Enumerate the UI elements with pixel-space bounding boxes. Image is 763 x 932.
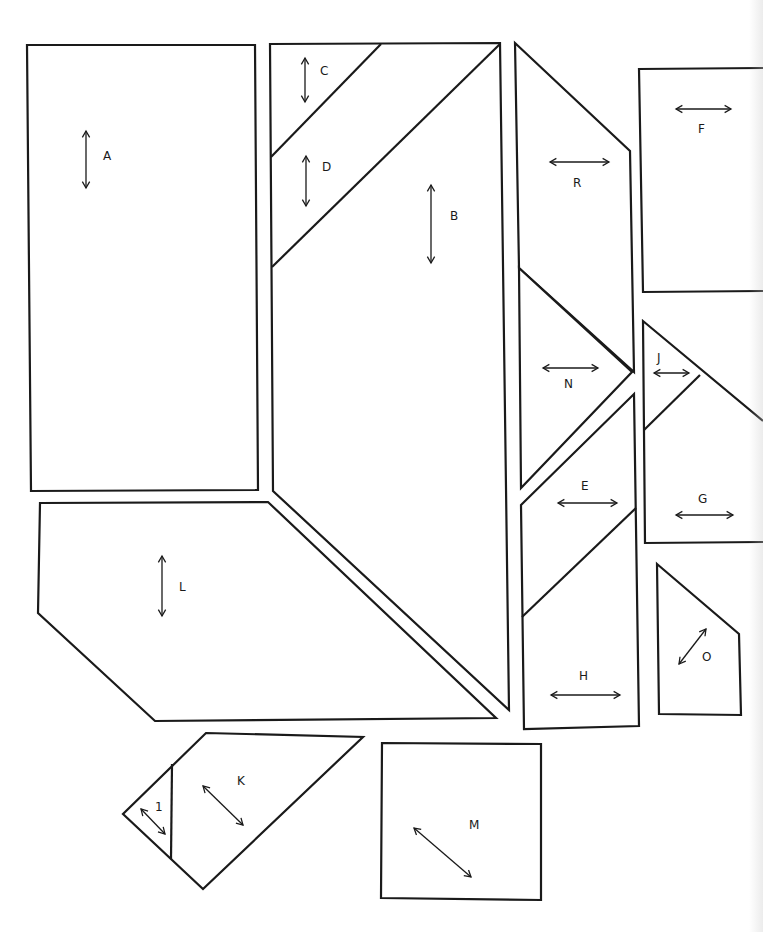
piece-f: F	[639, 68, 763, 292]
page-edge-shadow	[749, 0, 763, 932]
piece-label-r: R	[573, 176, 581, 190]
piece-label-a: A	[103, 149, 112, 163]
piece-m: M	[381, 743, 541, 900]
piece-label-h: H	[579, 669, 588, 683]
piece-label-k: K	[237, 774, 246, 788]
piece-label-d: D	[322, 160, 331, 174]
piece-g: G	[643, 321, 763, 543]
piece-o: O	[657, 564, 741, 715]
piece-a: A	[27, 45, 258, 491]
piece-label-g: G	[698, 492, 707, 506]
piece-label-n: N	[564, 377, 573, 391]
piece-label-m: M	[469, 818, 479, 832]
piece-label-b: B	[450, 209, 458, 223]
piece-label-o: O	[702, 650, 711, 664]
pattern-diagram: A B C D R N E H F	[0, 0, 763, 932]
piece-label-l: L	[179, 580, 186, 594]
piece-label-e: E	[581, 479, 589, 493]
piece-label-j: J	[656, 351, 661, 365]
piece-label-c: C	[320, 64, 328, 78]
piece-label-f: F	[698, 122, 705, 136]
piece-label-i: 1	[155, 800, 163, 814]
